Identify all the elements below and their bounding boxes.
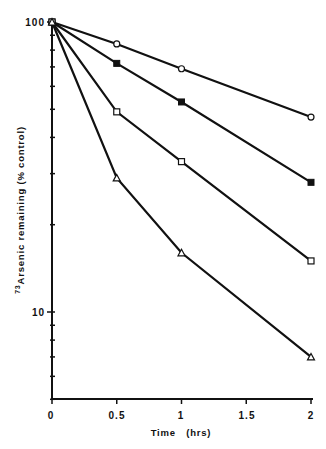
- data-point-marker: [308, 114, 314, 120]
- x-tick-labels: 0 0.5 1 1.5 2: [48, 410, 315, 421]
- x-axis-title: Time (hrs): [151, 427, 212, 438]
- x-tick-label: 1.5: [239, 410, 256, 421]
- y-axis-title: 73Arsenic remaining (% control): [14, 126, 26, 294]
- data-point-marker: [308, 258, 314, 264]
- data-point-marker: [179, 159, 185, 165]
- series-group: [49, 19, 315, 360]
- svg-text:73Arsenic remaining (% control: 73Arsenic remaining (% control): [14, 126, 26, 294]
- y-axis-title-text: Arsenic remaining (% control): [15, 126, 26, 284]
- chart: 0 0.5 1 1.5 2 10 100 Time (hrs) 73Arseni…: [0, 0, 326, 449]
- data-point-marker: [114, 60, 120, 66]
- y-tick-labels: 10 100: [25, 17, 45, 318]
- y-axis-title-superscript: 73: [14, 284, 21, 293]
- y-tick-label: 100: [25, 17, 45, 28]
- data-point-marker: [113, 174, 120, 181]
- y-tick-label: 10: [32, 307, 45, 318]
- data-point-marker: [114, 109, 120, 115]
- x-tick-label: 2: [308, 410, 315, 421]
- x-tick-label: 1: [178, 410, 185, 421]
- data-point-marker: [179, 99, 185, 105]
- data-point-marker: [179, 66, 185, 72]
- data-point-marker: [308, 179, 314, 185]
- data-point-marker: [114, 41, 120, 47]
- series-square-open: [49, 19, 314, 264]
- x-tick-label: 0: [48, 410, 55, 421]
- series-line: [52, 22, 311, 261]
- x-tick-label: 0.5: [109, 410, 126, 421]
